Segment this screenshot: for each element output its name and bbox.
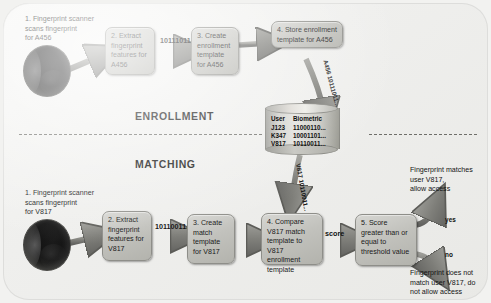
fingerprint-scan-match-icon [23, 219, 71, 271]
outcome-deny-access-text: Fingerprint does not match user V817, do… [410, 269, 488, 298]
db-cell-biometric: 10110011... [293, 140, 333, 148]
diagram-canvas: 1. Fingerprint scanner scans fingerprint… [0, 0, 491, 303]
db-cell-user: V817 [271, 140, 293, 148]
match-step5-box[interactable]: 5. Score greater than or equal to thresh… [355, 214, 417, 266]
db-cell-user: J123 [271, 124, 293, 132]
match-step3-box[interactable]: 3. Create match template for V817 [187, 214, 235, 264]
outcome-allow-access-text: Fingerprint matches user V817, allow acc… [410, 166, 488, 195]
fingerprint-scan-enroll-icon [23, 45, 71, 97]
branch-label-yes: yes [445, 216, 456, 223]
score-arrow-label: score [325, 229, 344, 238]
match-step4-box[interactable]: 4. Compare V817 match template to V817 e… [261, 213, 323, 265]
section-label-enrollment: ENROLLMENT [135, 110, 214, 122]
divider-left [19, 134, 262, 135]
db-cell-biometric: 11000110... [293, 124, 333, 132]
match-retrieve-bitstring-label: V817 10110011... [295, 163, 310, 212]
db-row: V817 10110011... [271, 140, 333, 148]
biometric-database-cylinder: User Biometric J123 11000110... K347 100… [265, 103, 338, 155]
branch-label-no: no [445, 251, 453, 258]
db-header-row: User Biometric [271, 115, 333, 124]
db-top-ellipse [265, 103, 338, 114]
arrow-score-yes [416, 206, 435, 225]
db-cell-user: K347 [271, 132, 293, 140]
arrow-enroll-create-to-store [239, 43, 271, 45]
db-col-user: User [271, 115, 293, 124]
enroll-step3-box[interactable]: 3. Create enrollment template for A456 [191, 27, 239, 75]
db-cell-biometric: 10001101... [293, 132, 333, 140]
db-row: J123 11000110... [271, 124, 333, 132]
arrow-score-no [416, 254, 436, 269]
section-label-matching: MATCHING [135, 158, 196, 170]
db-record-table: User Biometric J123 11000110... K347 100… [271, 115, 333, 148]
enroll-step4-box[interactable]: 4. Store enrollment template for A456 [271, 21, 343, 48]
enroll-store-bitstring-label: A456 10111011... [322, 59, 341, 107]
db-row: K347 10001101... [271, 132, 333, 140]
enroll-step2-box[interactable]: 2. Extract fingerprint features for A456 [105, 27, 155, 75]
diagram-panel: 1. Fingerprint scanner scans fingerprint… [3, 3, 488, 300]
divider-right [369, 134, 477, 135]
match-step2-box[interactable]: 2. Extract fingerprint features for V817 [102, 211, 152, 261]
db-col-biometric: Biometric [293, 115, 333, 124]
